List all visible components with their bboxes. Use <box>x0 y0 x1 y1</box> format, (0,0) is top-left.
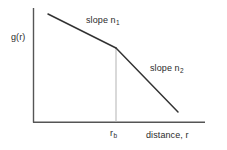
slope-n2-annotation: slope n2 <box>150 64 184 73</box>
curve-segment-slope-n2 <box>116 48 178 112</box>
slope-n2-annotation-subscript: 2 <box>180 67 184 74</box>
figure-container: g(r) distance, r slope n1 slope n2 rb <box>0 0 227 150</box>
slope-n1-annotation: slope n1 <box>86 16 120 25</box>
slope-n2-annotation-text: slope n <box>150 63 180 73</box>
slope-n1-annotation-text: slope n <box>86 15 116 25</box>
x-tick-label-rb-subscript: b <box>113 132 117 139</box>
slope-n1-annotation-subscript: 1 <box>116 19 120 26</box>
y-axis-label: g(r) <box>11 33 25 42</box>
x-axis-label: distance, r <box>146 131 189 140</box>
x-tick-label-rb: rb <box>110 129 117 138</box>
